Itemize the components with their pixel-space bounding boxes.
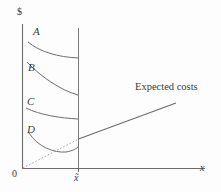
y-axis-label: $ [17, 7, 22, 17]
curve-label-b: B [28, 62, 35, 73]
expected-costs-label: Expected costs [135, 82, 198, 93]
curve-label-a: A [33, 26, 40, 37]
origin-label: 0 [12, 169, 17, 179]
curve-label-c: C [27, 96, 34, 107]
cost-curves-figure: $ x 0 x̃ A B C D Expected costs [0, 0, 221, 192]
x-axis-label: x [200, 163, 204, 173]
curve-label-d: D [27, 124, 35, 135]
expected-costs-line [79, 103, 177, 139]
cost-curve-a [28, 42, 78, 58]
expected-costs-dotted-segment [23, 139, 79, 168]
x-tilde-tick-label: x̃ [74, 173, 78, 183]
cost-curve-d [29, 133, 78, 152]
cost-curve-c [26, 108, 78, 119]
